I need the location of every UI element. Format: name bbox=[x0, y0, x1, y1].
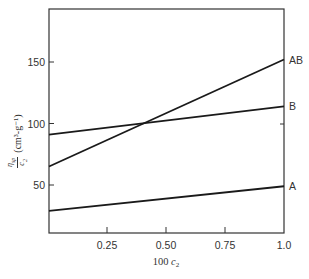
y-axis-ticks: 50100150 bbox=[27, 56, 54, 191]
x-tick-label: 0.25 bbox=[97, 239, 118, 251]
x-axis-title: 100 c2 bbox=[153, 256, 180, 269]
series-line-b bbox=[49, 106, 284, 134]
series-line-ab bbox=[49, 60, 284, 167]
y-tick-label: 150 bbox=[27, 56, 45, 68]
series-label-a: A bbox=[289, 180, 296, 192]
y-tick-label: 100 bbox=[27, 118, 45, 130]
y-axis-fraction: ηsp c2 bbox=[6, 157, 28, 168]
x-tick-label: 0.50 bbox=[156, 239, 177, 251]
series-labels: ABBA bbox=[289, 54, 303, 193]
series-label-b: B bbox=[289, 100, 296, 112]
x-tick-label: 0.75 bbox=[215, 239, 236, 251]
series-label-ab: AB bbox=[289, 54, 303, 66]
y-axis-title: ηsp c2 (cm³-g⁻¹) bbox=[6, 114, 28, 168]
data-lines bbox=[49, 60, 284, 211]
chart: 50100150 0.250.500.751.0 ABBA 100 c2 bbox=[0, 0, 309, 279]
series-line-a bbox=[49, 186, 284, 211]
x-tick-label: 1.0 bbox=[277, 239, 292, 251]
x-axis-ticks: 0.250.500.751.0 bbox=[97, 124, 292, 251]
y-axis-units: (cm³-g⁻¹) bbox=[12, 114, 23, 152]
y-tick-label: 50 bbox=[33, 179, 45, 191]
